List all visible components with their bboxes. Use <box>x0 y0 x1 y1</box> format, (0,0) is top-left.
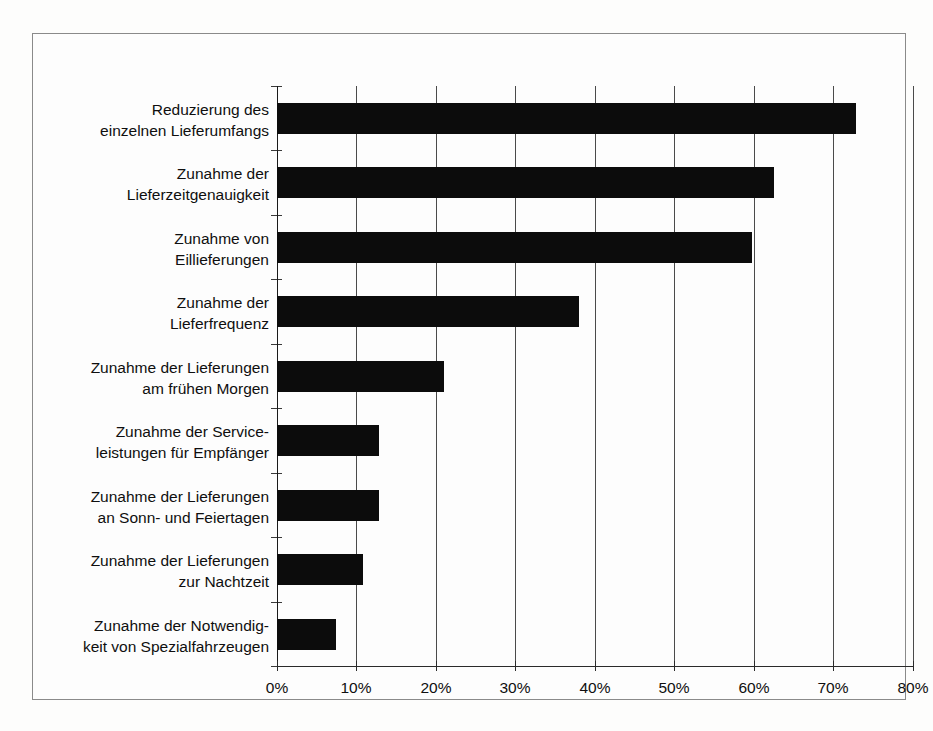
category-label-1: Zunahme der Lieferzeitgenauigkeit <box>69 163 269 205</box>
x-axis-label-30: 30% <box>485 679 545 697</box>
x-axis-tick <box>515 661 516 671</box>
plot-area <box>277 86 913 666</box>
x-axis-label-80: 80% <box>883 679 933 697</box>
category-label-4: Zunahme der Lieferungen am frühen Morgen <box>39 357 269 399</box>
x-axis-label-50: 50% <box>644 679 704 697</box>
scanned-page: Reduzierung des einzelnen Lieferumfangs … <box>0 0 933 731</box>
bar-5[interactable] <box>277 425 379 456</box>
x-axis-label-0: 0% <box>247 679 307 697</box>
bar-7[interactable] <box>277 554 363 585</box>
gridline-80 <box>913 86 914 666</box>
x-axis-tick <box>674 661 675 671</box>
category-axis-labels: Reduzierung des einzelnen Lieferumfangs … <box>37 86 269 666</box>
bar-0[interactable] <box>277 103 856 134</box>
bar-8[interactable] <box>277 619 336 650</box>
x-axis-tick <box>436 661 437 671</box>
x-axis-tick <box>595 661 596 671</box>
bar-6[interactable] <box>277 490 379 521</box>
bar-4[interactable] <box>277 361 444 392</box>
category-label-0: Reduzierung des einzelnen Lieferumfangs <box>69 99 269 141</box>
x-axis-label-40: 40% <box>565 679 625 697</box>
x-axis-label-60: 60% <box>724 679 784 697</box>
chart-frame: Reduzierung des einzelnen Lieferumfangs … <box>32 33 906 700</box>
bar-3[interactable] <box>277 296 579 327</box>
x-axis-tick <box>277 661 278 671</box>
x-axis-label-20: 20% <box>406 679 466 697</box>
x-axis-tick <box>833 661 834 671</box>
gridline-70 <box>833 86 834 666</box>
category-label-2: Zunahme von Eillieferungen <box>69 228 269 270</box>
x-axis-tick <box>754 661 755 671</box>
category-label-3: Zunahme der Lieferfrequenz <box>69 292 269 334</box>
category-label-5: Zunahme der Service- leistungen für Empf… <box>39 421 269 463</box>
x-axis-tick <box>356 661 357 671</box>
x-axis-label-10: 10% <box>326 679 386 697</box>
x-axis-label-70: 70% <box>803 679 863 697</box>
category-label-8: Zunahme der Notwendig- keit von Spezialf… <box>39 615 269 657</box>
category-label-7: Zunahme der Lieferungen zur Nachtzeit <box>39 550 269 592</box>
category-label-6: Zunahme der Lieferungen an Sonn- und Fei… <box>39 486 269 528</box>
bar-2[interactable] <box>277 232 752 263</box>
bar-1[interactable] <box>277 167 774 198</box>
x-axis-tick <box>913 661 914 671</box>
